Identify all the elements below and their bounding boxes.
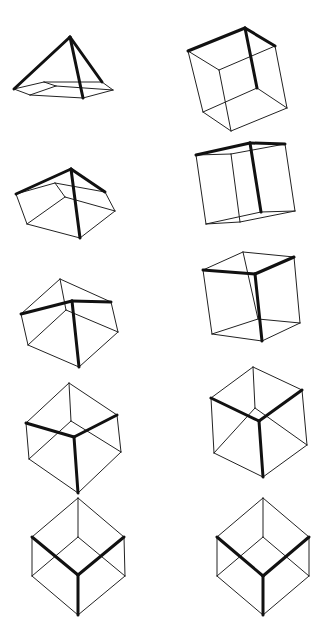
edge-A-AB: [32, 498, 78, 537]
edge-C-CA: [30, 95, 83, 98]
edge-C-CA: [203, 88, 257, 112]
edge-C-BC: [78, 576, 125, 615]
edge-C-BC: [263, 576, 309, 615]
edge-C-BC: [262, 323, 300, 341]
cube-figure-left-2: [16, 169, 115, 238]
edge-K-BC: [255, 408, 307, 445]
edge-C-BC: [263, 445, 307, 477]
edge-C-CA: [28, 345, 79, 367]
edge-B-BC: [117, 415, 121, 452]
edge-A-CA: [188, 51, 203, 112]
edge-C-CA: [217, 576, 263, 615]
cube-figure-right-5: [217, 498, 309, 615]
edge-K-CA: [30, 86, 56, 95]
edge-B-AB: [243, 252, 294, 257]
edge-K-BC: [56, 86, 113, 90]
edge-K-CA: [203, 112, 231, 131]
edge-B-BC: [124, 537, 125, 576]
bold-edge-F-B: [72, 301, 111, 302]
bold-edge-F-A: [211, 398, 259, 421]
bold-edge-F-B: [250, 143, 285, 144]
edge-B-AB: [253, 367, 302, 390]
edge-B-BC: [102, 82, 113, 90]
edge-K-BC: [65, 197, 115, 211]
bold-edge-F-C: [74, 437, 78, 493]
edge-K-CA: [212, 319, 258, 334]
edge-K-CA: [28, 310, 66, 345]
edge-B-BC: [285, 144, 295, 211]
edge-C-CA: [27, 224, 80, 238]
edge-A-AB: [217, 498, 263, 537]
cube-diagram: [0, 0, 326, 634]
edge-C-BC: [83, 90, 113, 98]
edge-A-CA: [16, 194, 27, 224]
edge-B-BC: [111, 302, 118, 332]
edge-B-AB: [69, 383, 117, 415]
bold-edge-F-A: [196, 143, 250, 155]
edge-K-AB: [69, 383, 71, 421]
edge-C-CA: [32, 576, 78, 615]
edge-A-CA: [14, 89, 30, 95]
edge-C-BC: [79, 332, 118, 367]
edge-A-CA: [26, 423, 29, 459]
edge-K-AB: [44, 82, 56, 86]
edge-B-AB: [263, 498, 309, 537]
cube-figure-right-3: [203, 252, 300, 341]
edge-K-CA: [27, 197, 65, 224]
edge-K-AB: [55, 183, 65, 197]
bold-edge-F-A: [14, 37, 70, 89]
edge-C-BC: [257, 88, 287, 108]
edge-A-AB: [26, 383, 69, 423]
edge-B-AB: [60, 279, 111, 302]
cube-figure-right-4: [211, 367, 307, 477]
cube-figure-right-1: [188, 28, 287, 131]
edge-B-BC: [275, 46, 287, 108]
bold-edge-F-C: [259, 421, 263, 477]
edge-C-BC: [80, 211, 115, 238]
edge-A-AB: [203, 252, 243, 270]
bold-edge-F-C: [72, 301, 79, 367]
edge-A-CA: [196, 155, 206, 224]
edge-A-AB: [211, 367, 253, 398]
edge-C-CA: [212, 334, 262, 341]
edge-B-BC: [294, 257, 300, 323]
edge-A-CA: [21, 314, 28, 345]
bold-edge-F-C: [255, 274, 262, 341]
edge-B-BC: [302, 390, 307, 445]
cube-figure-left-4: [26, 383, 121, 493]
bold-edge-F-C: [250, 143, 261, 212]
bold-edge-F-B: [74, 415, 117, 437]
cube-figure-right-2: [196, 143, 295, 224]
edge-K-AB: [253, 367, 255, 408]
edge-K-BC: [231, 108, 287, 131]
edge-A-CA: [203, 270, 212, 334]
bold-edge-F-B: [255, 257, 294, 274]
edge-K-BC: [258, 319, 300, 323]
cube-figure-left-5: [32, 498, 125, 615]
edge-K-BC: [240, 211, 295, 222]
cube-figure-left-1: [14, 37, 113, 98]
edge-B-AB: [78, 498, 124, 537]
edge-A-CA: [211, 398, 214, 453]
bold-edge-F-C: [71, 169, 80, 238]
edge-K-AB: [231, 154, 240, 222]
edge-B-AB: [219, 46, 275, 70]
edge-C-BC: [78, 452, 121, 493]
edge-A-AB: [188, 51, 219, 70]
bold-edge-F-A: [188, 28, 245, 51]
edge-C-CA: [214, 453, 263, 477]
edge-C-CA: [29, 459, 78, 493]
bold-edge-F-A: [16, 169, 71, 194]
bold-edge-F-B: [259, 390, 302, 421]
cube-figure-left-3: [21, 279, 118, 367]
